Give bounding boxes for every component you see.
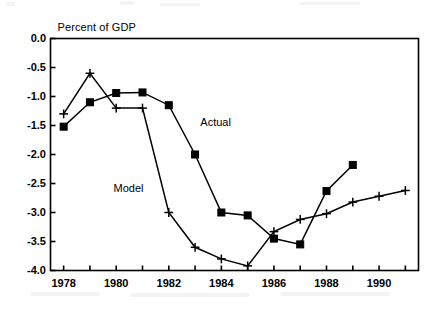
x-tick-label: 1988 [297, 277, 357, 289]
plot-frame [51, 39, 419, 271]
data-point-marker [165, 102, 172, 109]
x-tick-label: 1990 [349, 277, 409, 289]
x-tick-label: 1982 [139, 277, 199, 289]
data-point-marker [323, 188, 330, 195]
data-point-marker [113, 90, 120, 97]
data-point-marker [139, 89, 146, 96]
y-tick-label: -2.0 [4, 148, 46, 160]
data-point-marker [297, 241, 304, 248]
data-point-marker [349, 161, 356, 168]
data-point-marker [60, 123, 67, 130]
series-line [64, 73, 406, 266]
x-tick-label: 1980 [86, 277, 146, 289]
y-tick-label: -3.0 [4, 206, 46, 218]
series-line [64, 92, 353, 244]
data-point-marker [192, 151, 199, 158]
data-point-marker [270, 235, 277, 242]
series-actual [60, 89, 356, 248]
chart-container: Percent of GDP 0.0-0.5-1.0-1.5-2.0-2.5-3… [0, 0, 436, 309]
y-tick-label: -0.5 [4, 61, 46, 73]
y-tick-label: -1.0 [4, 90, 46, 102]
y-tick-label: -1.5 [4, 119, 46, 131]
data-point-marker [86, 99, 93, 106]
y-tick-label: 0.0 [4, 32, 46, 44]
data-point-marker [244, 212, 251, 219]
y-tick-label: -3.5 [4, 235, 46, 247]
data-point-marker [218, 209, 225, 216]
x-tick-label: 1984 [191, 277, 251, 289]
y-tick-label: -4.0 [4, 264, 46, 276]
plot-area [0, 0, 436, 309]
x-tick-label: 1978 [34, 277, 94, 289]
y-tick-label: -2.5 [4, 177, 46, 189]
series-label-actual: Actual [200, 116, 231, 128]
series-model [59, 69, 410, 270]
series-label-model: Model [114, 182, 144, 194]
x-tick-label: 1986 [244, 277, 304, 289]
